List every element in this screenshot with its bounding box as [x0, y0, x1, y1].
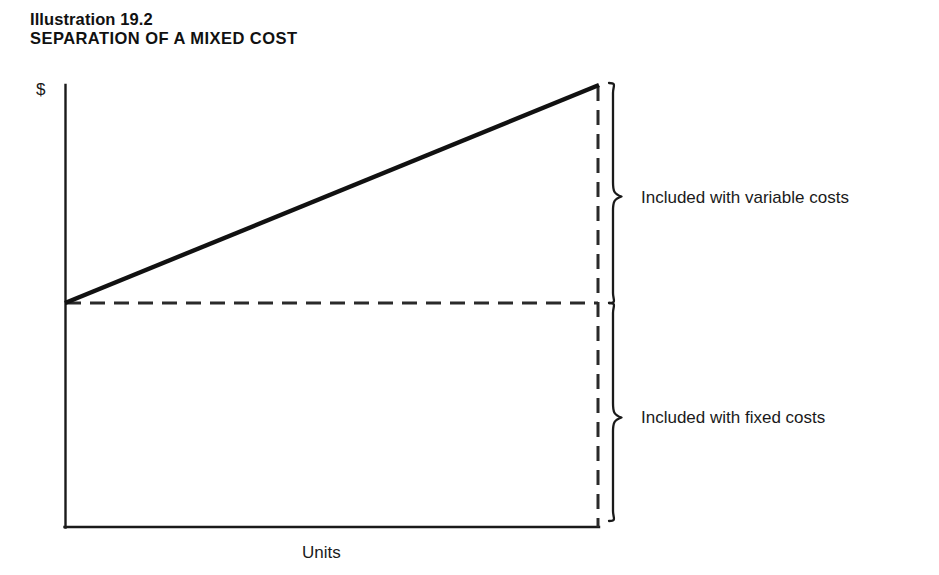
- figure-page: Illustration 19.2 SEPARATION OF A MIXED …: [0, 0, 939, 575]
- fixed-cost-annotation: Included with fixed costs: [641, 408, 825, 428]
- mixed-cost-chart: [0, 0, 939, 575]
- fixed-cost-brace: [609, 303, 622, 521]
- y-axis-label: $: [36, 80, 45, 100]
- variable-cost-annotation: Included with variable costs: [641, 188, 849, 208]
- total-cost-line: [65, 85, 599, 303]
- variable-cost-brace: [609, 83, 622, 303]
- x-axis-label: Units: [302, 543, 341, 563]
